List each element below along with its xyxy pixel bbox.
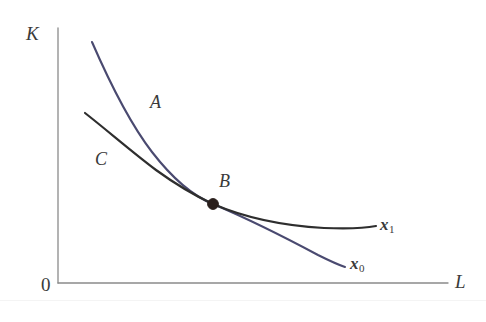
isoquant-label-x1-base: x [380, 215, 389, 234]
annotation-label-b: B [219, 172, 230, 190]
figure-canvas [0, 0, 486, 322]
annotation-label-a: A [150, 93, 161, 111]
isoquant-label-x1-subscript: 1 [389, 223, 395, 235]
isoquant-curve-x0 [92, 42, 345, 267]
origin-label: 0 [41, 275, 51, 294]
x-axis-label: L [455, 272, 466, 291]
isoquant-label-x0: x0 [350, 255, 364, 272]
tangency-point-marker [208, 199, 219, 210]
economics-figure: K L 0 A C B x1 x0 [0, 0, 486, 322]
annotation-label-c: C [95, 150, 107, 168]
isoquant-label-x0-subscript: 0 [359, 262, 365, 274]
isoquant-label-x1: x1 [380, 216, 394, 233]
y-axis-label: K [26, 24, 39, 43]
isoquant-label-x0-base: x [350, 254, 359, 273]
isoquant-curve-x1 [85, 113, 376, 228]
